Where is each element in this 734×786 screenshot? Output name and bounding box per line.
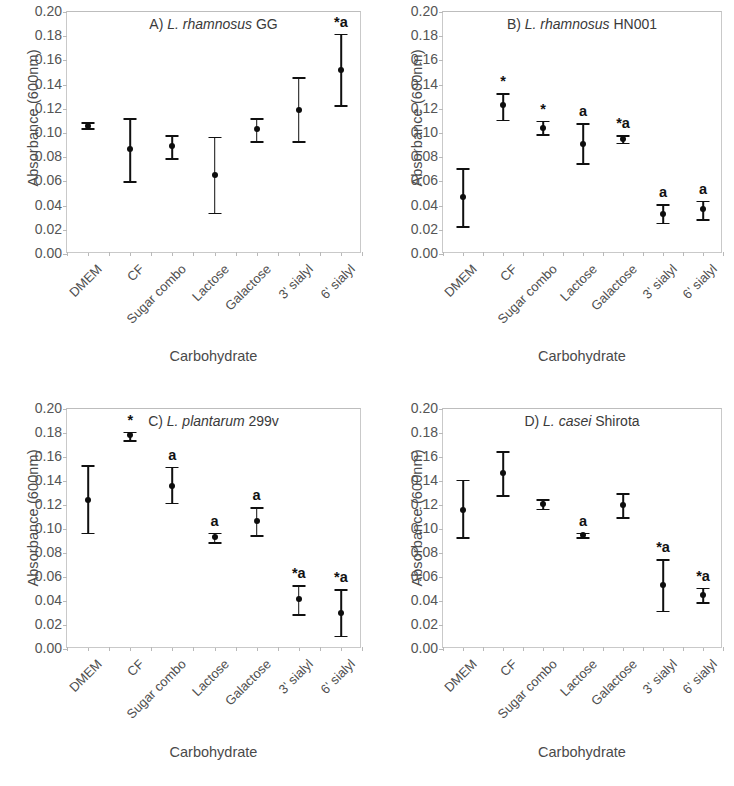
y-tick-mark — [439, 12, 443, 13]
error-bar-cap-lower — [697, 602, 710, 604]
y-axis-tick-label: 0.00 — [411, 641, 438, 655]
x-axis-tick-label: Lactose — [189, 657, 230, 698]
data-point-marker — [660, 211, 666, 217]
error-bar-cap-upper — [697, 588, 710, 590]
panel-title-prefix: A) — [149, 16, 163, 32]
y-tick-mark — [63, 505, 67, 506]
y-tick-mark — [63, 133, 67, 134]
data-point-group — [453, 12, 473, 254]
error-bar-cap-upper — [577, 123, 590, 125]
error-bar-cap-upper — [657, 204, 670, 206]
data-point-group: a — [573, 409, 593, 649]
error-bar-cap-upper — [250, 507, 263, 509]
y-axis-tick-label: 0.06 — [411, 569, 438, 583]
significance-annotation: a — [699, 182, 707, 197]
x-tick-mark — [193, 252, 194, 256]
y-tick-mark — [63, 181, 67, 182]
data-point-marker — [254, 518, 260, 524]
x-tick-mark — [723, 252, 724, 256]
data-point-marker — [85, 123, 91, 129]
y-axis-tick-label: 0.12 — [411, 101, 438, 115]
significance-annotation: *a — [334, 15, 348, 30]
y-axis-tick-label: 0.06 — [35, 569, 62, 583]
x-axis-tick-label: Lactose — [189, 262, 230, 303]
y-tick-mark — [439, 577, 443, 578]
x-tick-mark — [109, 252, 110, 256]
y-axis-tick-label: 0.16 — [35, 52, 62, 66]
y-axis-tick-label: 0.00 — [35, 246, 62, 260]
data-point-marker — [500, 102, 506, 108]
x-tick-mark — [483, 252, 484, 256]
y-axis-tick-label: 0.20 — [411, 401, 438, 415]
error-bar-cap-upper — [657, 559, 670, 561]
significance-annotation: *a — [292, 566, 306, 581]
error-bar-cap-upper — [334, 589, 347, 591]
data-point-marker — [700, 592, 706, 598]
y-axis-tick-label: 0.14 — [411, 473, 438, 487]
y-tick-mark — [63, 85, 67, 86]
y-axis-tick-label: 0.12 — [411, 497, 438, 511]
error-bar-cap-lower — [457, 537, 470, 539]
error-bar-cap-upper — [617, 493, 630, 495]
y-tick-mark — [439, 230, 443, 231]
error-bar-cap-lower — [250, 141, 263, 143]
x-axis-tick-label: 3' sialyl — [276, 657, 315, 696]
data-point-group — [162, 12, 182, 254]
significance-annotation: *a — [656, 540, 670, 555]
x-tick-mark — [109, 647, 110, 651]
error-bar-cap-lower — [166, 158, 179, 160]
error-bar-cap-upper — [537, 121, 550, 123]
data-point-marker — [620, 136, 626, 142]
x-axis-tick-label: 3' sialyl — [276, 262, 315, 301]
y-tick-mark — [63, 529, 67, 530]
data-point-marker — [660, 582, 666, 588]
y-axis-tick-label: 0.20 — [35, 401, 62, 415]
error-bar-cap-upper — [497, 451, 510, 453]
y-axis-tick-label: 0.04 — [411, 198, 438, 212]
data-point-group: a — [573, 12, 593, 254]
x-axis-tick-label: DMEM — [442, 262, 479, 299]
data-point-group — [205, 12, 225, 254]
error-bar-cap-lower — [208, 213, 221, 215]
y-tick-mark — [439, 529, 443, 530]
significance-annotation: *a — [616, 116, 630, 131]
x-tick-mark — [563, 647, 564, 651]
y-axis-tick-label: 0.18 — [35, 425, 62, 439]
y-axis-tick-label: 0.02 — [411, 617, 438, 631]
error-bar-cap-lower — [166, 503, 179, 505]
x-axis-title: Carbohydrate — [66, 744, 361, 760]
data-point-marker — [338, 67, 344, 73]
x-axis-tick-label: 6' sialyl — [318, 657, 357, 696]
x-axis-tick-label: CF — [498, 657, 519, 678]
data-point-group: *a — [693, 409, 713, 649]
y-tick-mark — [439, 133, 443, 134]
error-bar-cap-upper — [82, 465, 95, 467]
y-tick-mark — [439, 109, 443, 110]
x-tick-mark — [683, 252, 684, 256]
y-axis-tick-labels: 0.200.180.160.140.120.100.080.060.040.02… — [394, 392, 438, 658]
error-bar-cap-upper — [334, 34, 347, 36]
data-point-marker — [580, 532, 586, 538]
x-axis-tick-label: 6' sialyl — [318, 262, 357, 301]
x-tick-mark — [320, 647, 321, 651]
y-tick-mark — [63, 457, 67, 458]
error-bar-cap-lower — [250, 535, 263, 537]
x-axis-tick-labels: DMEMCFSugar comboLactoseGalactose3' sial… — [0, 262, 380, 382]
data-point-marker — [338, 610, 344, 616]
significance-annotation: *a — [334, 570, 348, 585]
error-bar-cap-upper — [497, 93, 510, 95]
data-point-group — [453, 409, 473, 649]
error-bar-cap-lower — [334, 105, 347, 107]
data-point-group: *a — [289, 409, 309, 649]
error-bar-cap-upper — [166, 135, 179, 137]
x-tick-mark — [443, 647, 444, 651]
y-tick-mark — [439, 457, 443, 458]
data-point-group — [613, 409, 633, 649]
error-bar-cap-lower — [292, 614, 305, 616]
error-bar-cap-upper — [166, 467, 179, 469]
error-bar-cap-upper — [292, 77, 305, 79]
x-tick-mark — [151, 647, 152, 651]
data-point-group — [289, 12, 309, 254]
x-axis-tick-labels: DMEMCFSugar comboLactoseGalactose3' sial… — [380, 262, 734, 382]
x-axis-tick-label: DMEM — [442, 657, 479, 694]
